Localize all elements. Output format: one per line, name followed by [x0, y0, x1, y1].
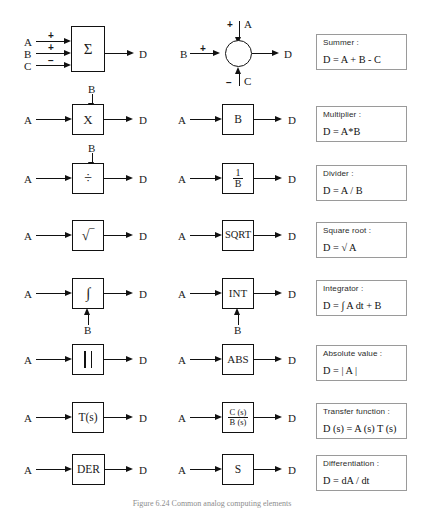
legend-absolute-value-equation: D = | A |: [323, 365, 401, 376]
transfer-ratio-numerator: C (s): [228, 408, 249, 417]
der-input-label: A: [24, 465, 32, 476]
transfer-ratio-block: C (s) B (s): [222, 402, 254, 433]
transfer-function-block: T(s): [72, 402, 104, 433]
integrator-output-arrow: [126, 290, 133, 296]
sqrt-text-block: SQRT: [222, 220, 254, 251]
summer-input-a-label: A: [24, 37, 32, 48]
legend-multiplier-name: Multiplier :: [323, 111, 401, 120]
der-output-wire: [105, 469, 128, 470]
legend-differentiation-name: Differentiation :: [323, 460, 401, 469]
int-text-output-arrow: [275, 290, 282, 296]
ratio-input-label: A: [178, 413, 186, 424]
ratio-output-arrow: [275, 414, 282, 420]
legend-square-root-name: Square root :: [323, 227, 401, 236]
summer-block: Σ: [71, 26, 105, 72]
abs-text-output-wire: [254, 359, 277, 360]
divider-output-wire: [104, 178, 128, 179]
legend-summer-name: Summer :: [323, 39, 401, 48]
sqrt-symbol-block: √‾: [72, 220, 104, 251]
abs-symbol-output-wire: [104, 359, 128, 360]
junction-wire-b: [190, 53, 215, 54]
multiplier-input-label: A: [24, 115, 32, 126]
junction-output-label: D: [284, 49, 292, 60]
gain-output-arrow: [275, 116, 282, 122]
multiplier-output-arrow: [126, 116, 133, 122]
abs-text-input-arrow: [215, 356, 222, 362]
abs-symbol-input-arrow: [65, 356, 72, 362]
sqrt-text-glyph: SQRT: [225, 230, 251, 241]
junction-output-arrow: [272, 50, 279, 56]
integrator-symbol-block: ∫: [72, 278, 104, 309]
integrator-input-wire: [36, 293, 68, 294]
summer-wire-c: [36, 65, 66, 66]
integrator-symbol-glyph: ∫: [86, 286, 90, 301]
ratio-output-wire: [254, 417, 277, 418]
reciprocal-input-arrow: [215, 175, 222, 181]
der-input-arrow: [65, 466, 72, 472]
multiplier-output-label: D: [139, 115, 147, 126]
reciprocal-denominator: B: [233, 178, 244, 189]
int-text-input-arrow: [215, 290, 222, 296]
int-text-output-label: D: [288, 289, 296, 300]
integrator-input-label: A: [24, 289, 32, 300]
divider-output-arrow: [126, 175, 133, 181]
summer-block-glyph: Σ: [84, 42, 93, 57]
legend-absolute-value-name: Absolute value :: [323, 350, 401, 359]
abs-text-input-label: A: [178, 355, 186, 366]
s-block-output-label: D: [288, 465, 296, 476]
legend-differentiation-equation: D = dA / dt: [323, 475, 401, 486]
integrator-output-wire: [104, 293, 128, 294]
ratio-input-wire: [190, 417, 218, 418]
legend-square-root-equation: D = √ A: [323, 242, 401, 253]
sqrt-text-input-arrow: [215, 232, 222, 238]
junction-input-a-label: A: [244, 19, 252, 30]
legend-integrator-name: Integrator :: [323, 285, 401, 294]
junction-arrow-b: [213, 50, 220, 56]
multiplier-block: X: [72, 104, 104, 135]
int-text-bottom-input-label: B: [234, 325, 241, 336]
divider-output-label: D: [139, 174, 147, 185]
gain-input-label: A: [178, 115, 186, 126]
der-input-wire: [36, 469, 68, 470]
gain-block: B: [222, 104, 254, 135]
junction-input-a-sign: +: [227, 20, 233, 30]
summer-output-label: D: [139, 49, 147, 60]
legend-divider-name: Divider :: [323, 170, 401, 179]
abs-bars-icon: [84, 351, 92, 368]
abs-text-input-wire: [190, 359, 218, 360]
s-block-output-arrow: [275, 466, 282, 472]
ratio-input-arrow: [215, 414, 222, 420]
legend-transfer-function-name: Transfer function :: [323, 408, 401, 417]
transfer-input-wire: [36, 417, 68, 418]
summer-input-a-sign: +: [48, 31, 54, 41]
gain-output-label: D: [288, 115, 296, 126]
gain-input-arrow: [215, 116, 222, 122]
legend-multiplier-equation: D = A*B: [323, 126, 401, 137]
reciprocal-input-wire: [190, 178, 218, 179]
transfer-input-arrow: [65, 414, 72, 420]
s-block-input-label: A: [178, 465, 186, 476]
transfer-output-arrow: [126, 414, 133, 420]
s-block-output-wire: [254, 469, 277, 470]
sqrt-text-output-label: D: [288, 231, 296, 242]
sqrt-input-arrow: [65, 232, 72, 238]
abs-text-output-label: D: [288, 355, 296, 366]
multiplier-input-arrow: [65, 116, 72, 122]
der-output-arrow: [126, 466, 133, 472]
reciprocal-numerator: 1: [233, 168, 244, 178]
multiplier-output-wire: [104, 119, 128, 120]
summer-arrow-b: [64, 50, 71, 56]
abs-text-block: ABS: [222, 344, 254, 375]
reciprocal-output-arrow: [275, 175, 282, 181]
legend-integrator-equation: D = ∫ A dt + B: [323, 300, 401, 311]
divider-input-wire: [36, 178, 68, 179]
summer-input-b-label: B: [24, 49, 31, 60]
abs-symbol-input-wire: [36, 359, 68, 360]
junction-input-b-label: B: [180, 49, 187, 60]
legend-square-root: Square root : D = √ A: [316, 222, 407, 258]
ratio-output-label: D: [288, 413, 296, 424]
der-block: DER: [72, 454, 105, 485]
legend-divider-equation: D = A / B: [323, 185, 401, 196]
junction-input-c-sign: −: [226, 78, 232, 88]
